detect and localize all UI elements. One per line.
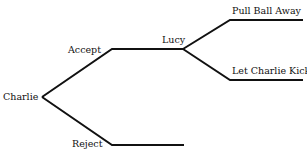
branch-reject-label: Reject xyxy=(72,139,102,149)
tree-lines xyxy=(0,0,307,154)
node-charlie: Charlie xyxy=(3,92,38,102)
accept-branch xyxy=(42,49,183,97)
node-lucy: Lucy xyxy=(162,35,185,45)
game-tree-diagram: Charlie Accept Reject Lucy Pull Ball Awa… xyxy=(0,0,307,154)
branch-accept-label: Accept xyxy=(68,45,101,55)
pull-branch xyxy=(183,20,303,49)
branch-pull-label: Pull Ball Away xyxy=(232,6,301,16)
reject-branch xyxy=(42,97,184,145)
branch-let-kick-label: Let Charlie Kick xyxy=(232,66,307,76)
